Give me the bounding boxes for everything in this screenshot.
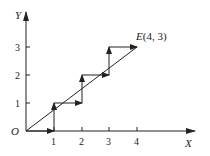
staircase-diagram: O Y X 1 2 3 4 1 2 3 E(4, 3): [0, 0, 210, 156]
x-ticks: [54, 127, 137, 131]
y-tick-label-2: 2: [15, 70, 20, 81]
y-tick-label-3: 3: [15, 42, 20, 53]
y-ticks: [26, 47, 30, 103]
origin-label: O: [11, 125, 19, 137]
x-tick-label-3: 3: [106, 136, 111, 147]
x-tick-label-1: 1: [51, 136, 56, 147]
x-axis-label: X: [184, 137, 193, 149]
y-tick-label-1: 1: [15, 98, 20, 109]
x-tick-label-4: 4: [134, 136, 139, 147]
y-axis-label: Y: [15, 9, 23, 21]
x-tick-label-2: 2: [79, 136, 84, 147]
point-e-label: E(4, 3): [135, 30, 167, 43]
